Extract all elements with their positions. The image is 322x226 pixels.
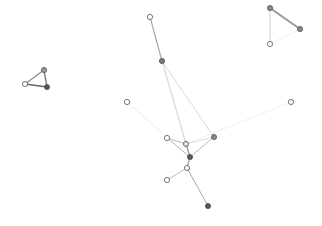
graph-edge [150, 17, 162, 61]
graph-edge [187, 168, 208, 206]
network-graph [0, 0, 322, 226]
graph-node[interactable] [187, 154, 192, 159]
graph-node[interactable] [41, 67, 46, 72]
graph-node[interactable] [211, 134, 216, 139]
graph-edge [270, 29, 300, 44]
graph-node[interactable] [267, 41, 272, 46]
graph-node[interactable] [22, 81, 27, 86]
graph-edge [186, 102, 291, 144]
graph-edge [25, 70, 44, 84]
graph-node[interactable] [164, 135, 169, 140]
node-layer [22, 5, 302, 208]
graph-edge [270, 8, 300, 29]
graph-edge [162, 61, 214, 137]
graph-node[interactable] [159, 58, 164, 63]
graph-node[interactable] [184, 165, 189, 170]
graph-node[interactable] [183, 141, 188, 146]
graph-node[interactable] [44, 84, 49, 89]
edge-layer [25, 8, 300, 206]
graph-node[interactable] [147, 14, 152, 19]
graph-edge [25, 84, 47, 87]
graph-node[interactable] [164, 177, 169, 182]
graph-node[interactable] [297, 26, 302, 31]
graph-node[interactable] [288, 99, 293, 104]
graph-node[interactable] [267, 5, 272, 10]
graph-edge [167, 168, 187, 180]
graph-node[interactable] [205, 203, 210, 208]
graph-node[interactable] [124, 99, 129, 104]
